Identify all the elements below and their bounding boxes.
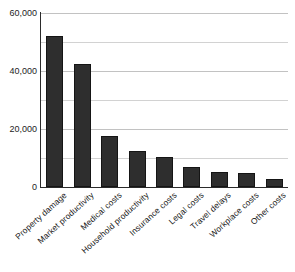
- bar-chart: 60,000 40,000 20,000 0 Property damageMa…: [0, 0, 295, 272]
- bar[interactable]: [101, 136, 118, 187]
- bar[interactable]: [238, 173, 255, 187]
- bar-series: [41, 13, 288, 187]
- bar[interactable]: [129, 151, 146, 187]
- y-tick-label: 20,000: [1, 125, 37, 134]
- bar[interactable]: [266, 179, 283, 187]
- chart-title: [57, 0, 177, 2]
- bar[interactable]: [211, 172, 228, 187]
- x-axis-tick-labels: Property damageMarket productivityMedica…: [0, 188, 295, 272]
- bar[interactable]: [156, 157, 173, 187]
- bar[interactable]: [46, 36, 63, 187]
- y-tick-label: 60,000: [1, 9, 37, 18]
- bar[interactable]: [183, 167, 200, 187]
- y-tick-label: 40,000: [1, 67, 37, 76]
- bar[interactable]: [74, 64, 91, 187]
